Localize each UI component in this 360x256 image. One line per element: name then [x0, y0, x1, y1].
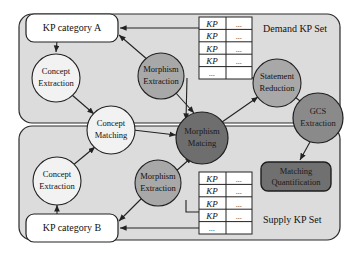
morphism-matching-node[interactable]: Morphism Matcing: [176, 112, 228, 164]
supply-kp-table[interactable]: KP ... KP ... KP ... KP ... ...: [199, 172, 252, 234]
demand-cell-left-4: ...: [209, 69, 215, 78]
concept-extraction-bottom-line2: Extraction: [39, 181, 75, 191]
demand-cell-right-1: ...: [236, 32, 242, 41]
demand-kp-set-label: Demand KP Set: [263, 23, 327, 34]
kp-category-a-box[interactable]: KP category A: [26, 14, 118, 42]
supply-cell-left-2: KP: [205, 199, 218, 209]
demand-cell-left-3: KP: [205, 56, 218, 66]
demand-cell-left-0: KP: [205, 19, 218, 29]
morphism-extraction-bottom-line2: Extraction: [140, 183, 176, 193]
gcs-extraction-node[interactable]: GCS Extraction: [293, 93, 343, 143]
demand-cell-right-3: ...: [236, 57, 242, 66]
matching-quantification-line2: Quantification: [271, 177, 321, 187]
supply-cell-right-2: ...: [236, 200, 242, 209]
kp-category-a-label: KP category A: [43, 22, 102, 33]
demand-cell-right-2: ...: [236, 45, 242, 54]
demand-cell-right-0: ...: [236, 20, 242, 29]
demand-cell-left-1: KP: [205, 31, 218, 41]
concept-matching-node[interactable]: Concept Matching: [87, 106, 135, 154]
supply-cell-right-3: ...: [236, 212, 242, 221]
matching-quantification-box[interactable]: Matching Quantification: [261, 162, 331, 191]
morphism-extraction-bottom-node[interactable]: Morphism Extraction: [135, 160, 181, 206]
morphism-extraction-top-line2: Extraction: [143, 76, 179, 86]
diagram-canvas: KP ... KP ... KP ... KP ... ... KP ... K…: [0, 0, 360, 256]
concept-matching-line1: Concept: [97, 118, 126, 128]
supply-cell-right-1: ...: [236, 187, 242, 196]
supply-cell-left-4: ...: [209, 224, 215, 233]
demand-kp-table[interactable]: KP ... KP ... KP ... KP ... ...: [199, 17, 252, 79]
matching-quantification-line1: Matching: [280, 166, 313, 176]
morphism-matching-line1: Morphism: [184, 126, 220, 136]
concept-extraction-top-line2: Extraction: [38, 78, 74, 88]
concept-matching-line2: Matching: [95, 130, 128, 140]
gcs-extraction-line1: GCS: [310, 106, 327, 116]
morphism-matching-line2: Matcing: [188, 138, 217, 148]
supply-cell-left-3: KP: [205, 211, 218, 221]
morphism-extraction-bottom-line1: Morphism: [140, 171, 176, 181]
kp-category-b-label: KP category B: [43, 222, 102, 233]
kp-category-b-box[interactable]: KP category B: [26, 214, 118, 242]
morphism-extraction-top-node[interactable]: Morphism Extraction: [138, 53, 184, 99]
statement-reduction-node[interactable]: Statement Reduction: [253, 59, 301, 107]
supply-kp-set-label: Supply KP Set: [263, 214, 322, 225]
gcs-extraction-line2: Extraction: [300, 118, 336, 128]
concept-extraction-bottom-node[interactable]: Concept Extraction: [33, 157, 81, 205]
morphism-extraction-top-line1: Morphism: [143, 64, 179, 74]
supply-cell-right-0: ...: [236, 175, 242, 184]
supply-cell-left-0: KP: [205, 174, 218, 184]
supply-cell-left-1: KP: [205, 186, 218, 196]
concept-extraction-bottom-line1: Concept: [43, 169, 72, 179]
demand-cell-left-2: KP: [205, 44, 218, 54]
concept-extraction-top-node[interactable]: Concept Extraction: [32, 54, 80, 102]
statement-reduction-line2: Reduction: [260, 83, 296, 93]
statement-reduction-line1: Statement: [260, 71, 295, 81]
concept-extraction-top-line1: Concept: [42, 66, 71, 76]
